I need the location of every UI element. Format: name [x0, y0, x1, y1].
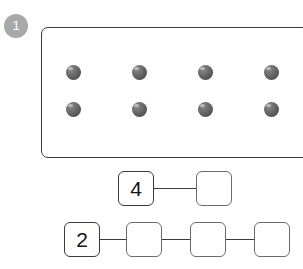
counter-dot-icon [198, 102, 213, 117]
chain-box-empty[interactable] [196, 171, 232, 206]
worksheet-canvas: 1 [0, 0, 303, 269]
dot-cell [42, 65, 108, 83]
dot-cell [174, 102, 240, 120]
dot-cell [240, 65, 303, 83]
dot-row [42, 102, 303, 120]
dot-cell [240, 102, 303, 120]
counter-dot-icon [66, 65, 81, 80]
dot-cell [174, 65, 240, 83]
counter-dots-panel [41, 27, 303, 158]
skip-count-chain-by-two: 2 [64, 222, 290, 257]
counter-dot-icon [132, 102, 147, 117]
counter-dot-icon [132, 65, 147, 80]
chain-box-value[interactable]: 4 [118, 171, 154, 206]
chain-connector [154, 188, 196, 190]
dot-row [42, 65, 303, 83]
step-number-badge: 1 [4, 14, 28, 38]
dot-cell [108, 65, 174, 83]
chain-box-value[interactable]: 2 [64, 222, 100, 257]
skip-count-chain-by-four: 4 [118, 171, 232, 206]
counter-dot-icon [264, 102, 279, 117]
counter-dot-icon [66, 102, 81, 117]
chain-box-empty[interactable] [126, 222, 162, 257]
chain-box-empty[interactable] [190, 222, 226, 257]
dot-grid [42, 28, 303, 157]
counter-dot-icon [264, 65, 279, 80]
chain-connector [100, 239, 126, 241]
chain-connector [162, 239, 190, 241]
counter-dot-icon [198, 65, 213, 80]
dot-cell [42, 102, 108, 120]
dot-cell [108, 102, 174, 120]
chain-connector [226, 239, 254, 241]
chain-box-empty[interactable] [254, 222, 290, 257]
